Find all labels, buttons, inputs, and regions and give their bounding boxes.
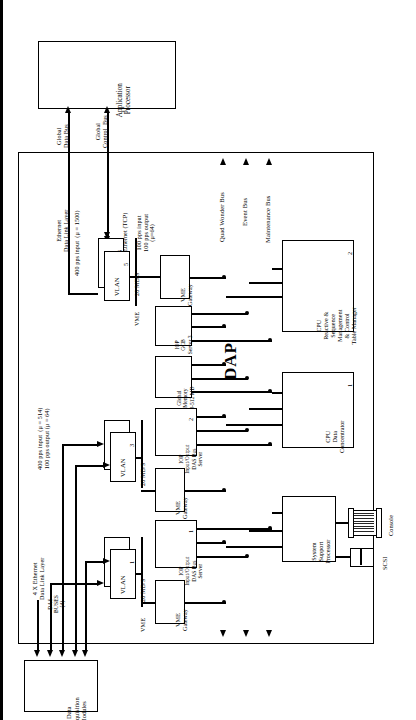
global-memory-link-b [192, 378, 248, 380]
global-memory-box: GlobalMemory8-512 MB [155, 356, 192, 398]
vlan-3-input-line-a [62, 444, 98, 446]
vlan-5-vme-label: VME [134, 312, 141, 326]
ssp-to-console-link [336, 522, 348, 524]
iop-gcb-link-a [192, 313, 248, 315]
page-title: DAP [222, 342, 240, 380]
quad-wonder-bus-line [0, 0, 3, 468]
das-bus-line-2 [50, 600, 52, 652]
scsi-divider [360, 548, 362, 565]
cpu-data-concentrator-index: 1 [347, 384, 354, 387]
quad-wonder-bus-label: Quad Wonder Bus [218, 192, 225, 242]
vlan-3-input-line-b [75, 465, 104, 467]
vme-gateway-bottom-bus-link [185, 602, 226, 604]
cpu-reactive-sequence-box: CPUReactive &SequenceManagement& Control… [282, 240, 354, 332]
vlan-1-speed-label: 20 MB/S [140, 579, 147, 602]
application-processor-box: ApplicationProcessor [38, 41, 176, 109]
vlan-1-input-arrow-b [97, 580, 104, 586]
cpu-reactive-sequence-index: 2 [347, 252, 354, 255]
vlan5-to-vme-gateway-link [135, 276, 160, 278]
console-label: Console [388, 515, 395, 536]
quad-wonder-bus-arrow-down [220, 630, 226, 637]
console-bezel-left [348, 508, 354, 538]
vlan-5-label: VLAN [113, 277, 120, 296]
application-processor-label: ApplicationProcessor [116, 66, 132, 100]
vlan-3-stub [136, 457, 142, 459]
vlan-3-label: VLAN [119, 458, 126, 477]
vlan-5-box: VLAN 5 [104, 251, 130, 301]
maintenance-bus-arrow-down [266, 630, 272, 637]
ssp-bus-link-a [272, 512, 282, 514]
ssp-bus-link-c [226, 546, 282, 548]
iop-gcb-server-3-box: IOPGCBServer 3 [155, 306, 192, 346]
cpu1-bus-link-c [226, 424, 282, 426]
console-bezel-right [376, 508, 382, 538]
ssp-to-scsi-link [336, 556, 350, 558]
data-acquisition-modules-label: DataAcquisitionModules [65, 682, 88, 713]
ethernet-top-feed-hline [68, 293, 98, 295]
iop-das-bus-server-2-index: 2 [188, 418, 195, 421]
iop-das-bus-server-2-box: IOPInput/OutputDAS BusServer 2 [155, 408, 197, 456]
ethernet-tcp-arrow [104, 232, 110, 239]
ethernet-bottom-label: 4 X EthernetData Link Layer [32, 558, 45, 600]
global-control-bus-arrowhead-up [104, 106, 110, 113]
vlan-1-vme-label: VME [140, 618, 147, 632]
scsi-icon [350, 548, 374, 567]
vlan-1-label: VLAN [119, 575, 126, 594]
vme-gateway-mid-bus-link [185, 490, 226, 492]
ethernet-bottom-rate-label: 400 pps input (μ = 514)100 pps output (μ… [37, 408, 50, 471]
das-bus-line-4 [75, 575, 77, 652]
cpu-data-concentrator-box: CPUDataConcentrator 1 [282, 372, 354, 448]
data-acquisition-modules-box: DataAcquisitionModules [24, 660, 98, 712]
system-support-processor-label: SystemSupportProcessor [310, 528, 331, 552]
das-bus-line-3 [62, 562, 64, 652]
cpu1-bus-link-b [249, 408, 282, 410]
cpu2-bus-link-c [226, 296, 282, 298]
das-bus-arrow-2 [47, 650, 53, 657]
diagram-root: { "diagram": { "title": "DAP", "external… [0, 0, 416, 720]
vme-gateway-top-box: VMEGateway [160, 255, 190, 299]
vlan-3-input-riser-b [75, 465, 77, 575]
ethernet-top-feed-vline [68, 222, 70, 294]
vme-gateway-top-bus-link [190, 277, 226, 279]
global-control-bus-label: GlobalControl Bus [95, 115, 108, 148]
iop-das2-link-c [197, 444, 272, 446]
maintenance-bus-arrow-up [266, 158, 272, 165]
vme-gateway-bottom-box: VMEGateway [155, 580, 185, 624]
cpu2-bus-link-a [272, 268, 282, 270]
event-bus-line [0, 468, 3, 720]
vlan-1-index-label: 1 [129, 561, 136, 564]
global-data-bus-label: GlobalData Bus [56, 124, 69, 148]
das-bus-arrow-1 [34, 650, 40, 657]
vlan1-to-vme-gateway-link [141, 602, 155, 604]
vlan-5-index-label: 5 [123, 263, 130, 266]
das-bus-arrow-5 [82, 650, 88, 657]
console-screen-hatch [354, 512, 374, 532]
das-bus-line-1 [37, 600, 39, 652]
vlan-3-index-label: 3 [129, 444, 136, 447]
event-bus-arrow-up [243, 158, 249, 165]
vlan-3-input-arrow-a [97, 441, 104, 447]
iop-gcb-link-b [192, 326, 226, 328]
vlan-3-speed-label: 20 MB/S [140, 463, 147, 486]
ssp-bus-link-b [249, 530, 282, 532]
cpu2-bus-link-b [249, 282, 282, 284]
iop-gcb-link-c [192, 340, 272, 342]
ethernet-tcp-rate-label: 100 pps input100 pps output(μ=64) [136, 214, 156, 252]
iop-das2-link-b [197, 430, 248, 432]
global-data-bus-arrowhead [65, 106, 71, 113]
global-memory-link-c [192, 391, 272, 393]
global-memory-link-a [192, 364, 226, 366]
vme-gateway-mid-box: VMEGateway [155, 468, 185, 512]
vlan-1-input-line-b [50, 583, 98, 585]
vlan-1-input-arrow-a [103, 558, 110, 564]
system-support-processor-box: SystemSupportProcessor [282, 496, 336, 562]
maintenance-bus-label: Maintenance Bus [264, 196, 271, 243]
ethernet-top-rate-label: 400 pps input (μ = 1500) [74, 210, 81, 276]
iop-das1-link-c [197, 556, 248, 558]
das-bus-arrow-4 [72, 650, 78, 657]
vlan-1-input-line-a [85, 561, 104, 563]
iop-gcb-server-3-label: IOPGCBServer 3 [173, 326, 192, 345]
quad-wonder-bus-arrow-up [220, 158, 226, 165]
vlan-1-input-riser-a [85, 561, 87, 601]
das-bus-arrow-3 [59, 650, 65, 657]
